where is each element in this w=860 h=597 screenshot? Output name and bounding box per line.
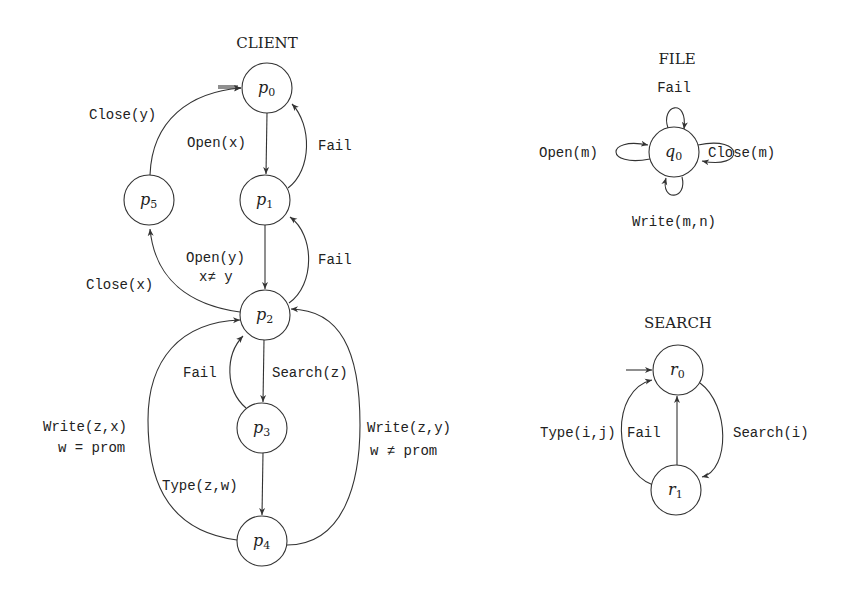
state-r0: r0: [653, 345, 703, 395]
state-p2: p2: [240, 290, 290, 340]
label-open-x: Open(x): [187, 135, 246, 151]
state-r1: r1: [651, 465, 701, 515]
label-fail-search: Fail: [627, 425, 661, 441]
state-p1: p1: [240, 175, 290, 225]
search-automaton: SEARCH Search(i) Fail Type(i,j) r0 r1: [540, 314, 809, 515]
edge-p5-p0: [150, 88, 241, 175]
client-automaton: CLIENT Open(x) Fail Open(y) x≠ y Fail Cl…: [43, 34, 451, 566]
loop-q0-top: [667, 108, 685, 129]
edge-p0-p1: [266, 113, 267, 174]
label-write-mn: Write(m,n): [632, 214, 716, 230]
state-p0: p0: [242, 63, 292, 113]
label-fail-p3-p2: Fail: [183, 365, 217, 381]
label-write-zx: Write(z,x): [43, 419, 127, 435]
label-w-eq-prom: w = prom: [58, 440, 125, 456]
edge-p4-p2-write-right: [287, 309, 360, 545]
edge-p2-p3: [263, 340, 264, 402]
state-p5: p5: [124, 175, 174, 225]
label-open-m: Open(m): [539, 145, 598, 161]
label-w-neq-prom: w ≠ prom: [370, 443, 437, 459]
label-search-z: Search(z): [272, 365, 348, 381]
state-p3: p3: [237, 403, 287, 453]
edge-p3-p4: [262, 453, 263, 515]
edge-p2-p1-fail: [289, 217, 309, 303]
label-close-x: Close(x): [86, 277, 153, 293]
label-type-ij: Type(i,j): [540, 425, 616, 441]
client-title: CLIENT: [236, 34, 297, 52]
loop-q0-bottom: [665, 177, 683, 195]
label-close-m: Close(m): [708, 145, 775, 161]
edge-p4-p2-write-left: [148, 320, 240, 540]
edge-p1-p0-fail: [288, 104, 307, 188]
state-p4: p4: [237, 516, 287, 566]
automata-diagram: CLIENT Open(x) Fail Open(y) x≠ y Fail Cl…: [0, 0, 860, 597]
label-fail-p1-p0: Fail: [318, 138, 352, 154]
file-title: FILE: [658, 50, 695, 68]
label-type-zw: Type(z,w): [162, 478, 238, 494]
file-automaton: FILE Fail Open(m) Close(m) Write(m,n) q0: [539, 50, 775, 230]
label-fail-p2-p1: Fail: [318, 252, 352, 268]
label-fail-file: Fail: [657, 80, 691, 96]
label-open-y: Open(y): [186, 250, 245, 266]
edge-p3-p2-fail: [230, 336, 246, 408]
state-q0: q0: [649, 127, 699, 177]
search-title: SEARCH: [644, 314, 712, 332]
loop-q0-left: [616, 143, 650, 160]
label-write-zy: Write(z,y): [367, 420, 451, 436]
label-search-i: Search(i): [733, 425, 809, 441]
label-close-y: Close(y): [89, 107, 156, 123]
edge-r0-r1-search: [700, 383, 723, 477]
label-x-neq-y: x≠ y: [199, 269, 233, 285]
